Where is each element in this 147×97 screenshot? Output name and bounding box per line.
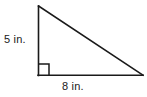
horizontal-leg-label: 8 in. [62,80,84,92]
right-angle-square-icon [39,64,50,75]
hypotenuse-line [39,6,144,75]
triangle-figure: 5 in. 8 in. [0,0,147,97]
vertical-leg-label: 5 in. [4,33,26,45]
